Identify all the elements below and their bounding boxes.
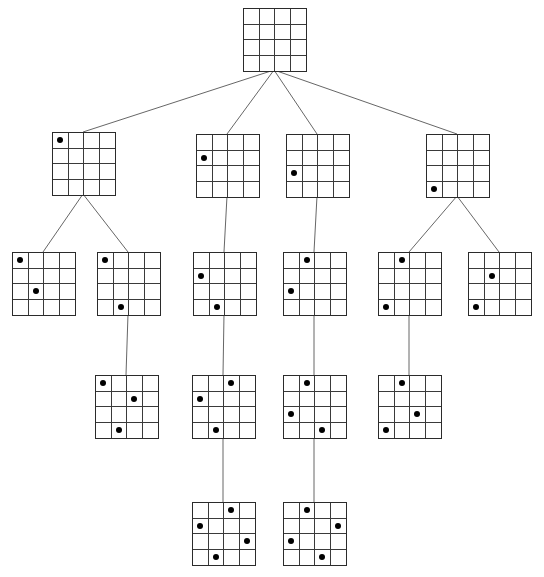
board-cell — [426, 253, 442, 269]
board-cell — [516, 269, 532, 285]
board-cell — [426, 300, 442, 316]
queen-dot — [17, 257, 23, 263]
board-cell — [300, 550, 316, 566]
board-cell — [127, 376, 143, 392]
board-cell — [225, 284, 241, 300]
board-cell — [287, 151, 303, 167]
board-cell — [240, 423, 256, 439]
board-cell — [379, 407, 395, 423]
board-cell — [100, 180, 116, 196]
board-cell — [129, 269, 145, 285]
board-cell — [300, 534, 316, 550]
board-cell — [244, 56, 260, 72]
board-cell — [29, 269, 45, 285]
board-cell — [244, 9, 260, 25]
board-cell — [284, 269, 300, 285]
board-cell — [209, 376, 225, 392]
board-cell — [244, 166, 260, 182]
board-cell — [209, 534, 225, 550]
board-cell — [143, 407, 159, 423]
board-cell — [114, 300, 130, 316]
board-cell — [395, 423, 411, 439]
board-cell — [395, 269, 411, 285]
board-cell — [197, 182, 213, 198]
board-cell — [458, 166, 474, 182]
board-cell — [143, 392, 159, 408]
board-cell — [228, 166, 244, 182]
board-cell — [284, 284, 300, 300]
board-cell — [469, 269, 485, 285]
board-node — [283, 252, 347, 316]
board-cell — [443, 182, 459, 198]
queen-dot — [431, 186, 437, 192]
board-cell — [500, 269, 516, 285]
board-cell — [315, 300, 331, 316]
board-cell — [300, 503, 316, 519]
board-cell — [315, 423, 331, 439]
board-cell — [60, 284, 76, 300]
board-cell — [334, 135, 350, 151]
board-cell — [331, 550, 347, 566]
board-cell — [303, 182, 319, 198]
board-cell — [315, 392, 331, 408]
board-cell — [426, 269, 442, 285]
queen-dot — [319, 554, 325, 560]
board-cell — [485, 300, 501, 316]
board-cell — [318, 151, 334, 167]
board-cell — [315, 519, 331, 535]
board-cell — [300, 300, 316, 316]
board-cell — [410, 253, 426, 269]
queen-dot — [473, 304, 479, 310]
board-cell — [210, 253, 226, 269]
board-cell — [209, 550, 225, 566]
queen-dot — [100, 380, 106, 386]
queen-dot — [197, 523, 203, 529]
queen-dot — [213, 427, 219, 433]
board-node — [192, 502, 256, 566]
board-cell — [284, 407, 300, 423]
board-cell — [13, 269, 29, 285]
tree-edge — [314, 196, 317, 252]
board-cell — [225, 269, 241, 285]
board-cell — [224, 534, 240, 550]
board-cell — [193, 519, 209, 535]
board-cell — [240, 376, 256, 392]
board-cell — [303, 151, 319, 167]
board-cell — [84, 133, 100, 149]
board-cell — [458, 135, 474, 151]
board-cell — [331, 392, 347, 408]
queen-dot — [244, 538, 250, 544]
board-cell — [44, 284, 60, 300]
board-cell — [410, 407, 426, 423]
board-cell — [284, 503, 300, 519]
board-cell — [300, 407, 316, 423]
board-cell — [334, 182, 350, 198]
queen-dot — [213, 554, 219, 560]
board-cell — [193, 550, 209, 566]
board-cell — [193, 392, 209, 408]
board-cell — [284, 519, 300, 535]
board-cell — [13, 284, 29, 300]
board-cell — [129, 284, 145, 300]
board-cell — [500, 300, 516, 316]
board-node — [426, 134, 490, 198]
board-cell — [379, 300, 395, 316]
queen-dot — [383, 304, 389, 310]
board-cell — [194, 284, 210, 300]
queen-dot — [304, 257, 310, 263]
board-cell — [331, 534, 347, 550]
tree-edge — [274, 70, 317, 134]
board-cell — [315, 407, 331, 423]
board-cell — [300, 284, 316, 300]
board-node — [52, 132, 116, 196]
board-cell — [426, 392, 442, 408]
search-tree-figure — [0, 0, 544, 577]
board-cell — [225, 253, 241, 269]
board-cell — [244, 25, 260, 41]
board-cell — [318, 135, 334, 151]
board-cell — [458, 182, 474, 198]
board-cell — [145, 284, 161, 300]
board-cell — [410, 423, 426, 439]
board-cell — [240, 550, 256, 566]
board-cell — [53, 149, 69, 165]
